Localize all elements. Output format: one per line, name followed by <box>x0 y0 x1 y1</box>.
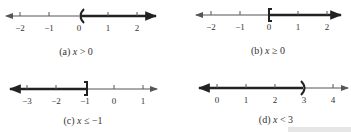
number-line-b: −2 −1 0 1 2 (b) x ≥ 0 <box>196 9 341 57</box>
tick-label: 1 <box>106 23 111 33</box>
tick-label: −2 <box>206 22 216 32</box>
tick-label: 0 <box>112 96 117 106</box>
tick-label: 2 <box>273 95 278 105</box>
caption-b: (b) x ≥ 0 <box>251 45 285 57</box>
caption-a: (a) x > 0 <box>59 46 93 58</box>
tick-label: 2 <box>135 23 140 33</box>
tick-label: 1 <box>141 96 146 106</box>
tick-label: 2 <box>325 22 330 32</box>
tick-label: 1 <box>244 95 249 105</box>
tick-label: 3 <box>302 95 307 105</box>
tick-label: −1 <box>235 22 245 32</box>
number-line-a: −2 −1 0 1 2 (a) x > 0 <box>6 9 156 58</box>
tick-label: 0 <box>267 22 272 32</box>
page-edge-artifact <box>288 127 351 132</box>
tick-label: 0 <box>77 23 82 33</box>
tick-label: −3 <box>22 96 32 106</box>
tick-label: 1 <box>296 22 301 32</box>
tick-label: −1 <box>80 96 90 106</box>
tick-label: −2 <box>51 96 61 106</box>
caption-c: (c) x ≤ −1 <box>63 115 102 127</box>
tick-label: −1 <box>44 23 54 33</box>
caption-d: (d) x < 3 <box>259 114 293 126</box>
tick-label: −2 <box>15 23 25 33</box>
tick-label: 4 <box>331 95 336 105</box>
number-line-d: 0 1 2 3 4 (d) x < 3 <box>199 81 348 126</box>
number-lines-figure: −2 −1 0 1 2 (a) x > 0 −2 −1 0 1 2 (b) x … <box>0 0 351 132</box>
tick-label: 0 <box>215 95 220 105</box>
number-line-c: −3 −2 −1 0 1 (c) x ≤ −1 <box>10 82 157 127</box>
